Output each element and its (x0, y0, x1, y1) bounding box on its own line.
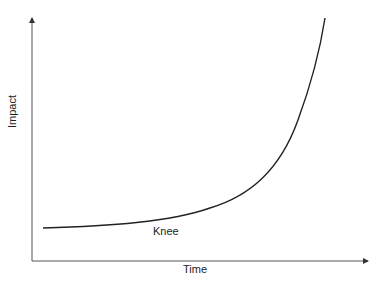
x-axis-label: Time (183, 263, 207, 275)
diagram-canvas (0, 0, 386, 285)
knee-label: Knee (153, 225, 179, 237)
impact-curve (43, 18, 325, 228)
y-axis-label: Impact (6, 95, 18, 128)
